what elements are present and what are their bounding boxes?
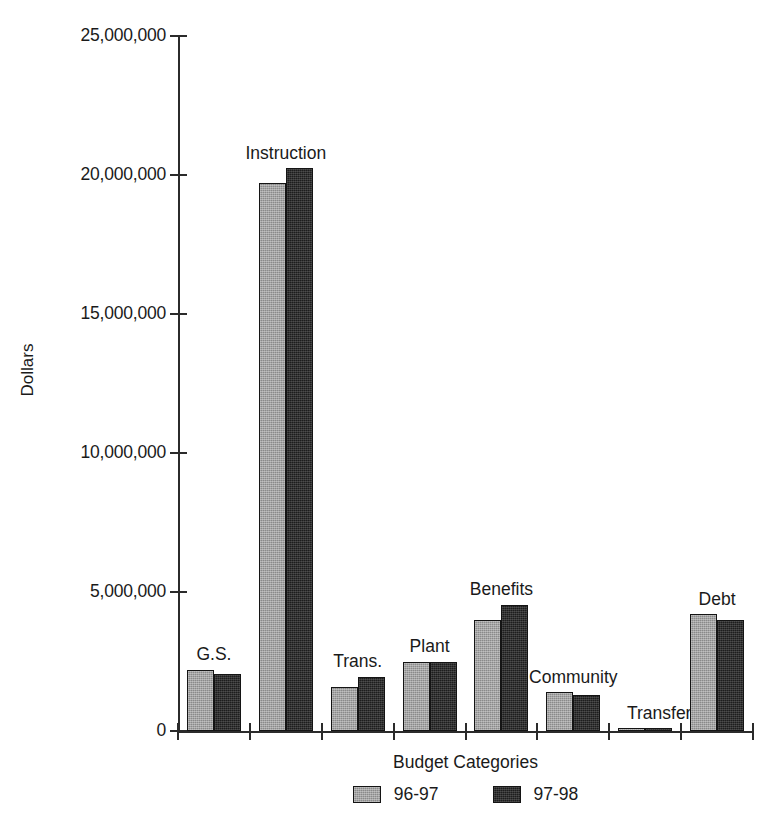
bar-chart: 05,000,00010,000,00015,000,00020,000,000…: [0, 0, 769, 817]
bar-group-label: Debt: [699, 591, 736, 609]
bar: [690, 614, 717, 731]
bar-group-label: Trans.: [333, 653, 382, 671]
bar: [474, 620, 501, 731]
bar: [214, 674, 241, 731]
bar-group-label: Plant: [410, 638, 450, 656]
x-axis-tick: [608, 723, 610, 740]
bar-group-label: Instruction: [245, 145, 326, 163]
bar-group: Plant: [394, 36, 466, 731]
bar-group: Instruction: [250, 36, 322, 731]
y-axis-title: Dollars: [18, 320, 38, 420]
x-axis-tick: [536, 723, 538, 740]
x-axis-title: Budget Categories: [178, 752, 753, 773]
bar-group-label: Community: [529, 669, 618, 687]
y-axis-tick-label: 10,000,000: [6, 444, 166, 462]
x-axis-tick: [680, 723, 682, 740]
legend-item: 97-98: [493, 786, 579, 804]
x-axis-tick: [321, 723, 323, 740]
bar: [259, 183, 286, 731]
bar: [286, 168, 313, 731]
x-axis-tick: [465, 723, 467, 740]
plot-area: G.S.InstructionTrans.PlantBenefitsCommun…: [178, 36, 753, 731]
y-axis-tick-label: 5,000,000: [6, 583, 166, 601]
bar: [501, 605, 528, 731]
bar: [187, 670, 214, 731]
gray-swatch: [353, 786, 381, 803]
black-swatch: [493, 786, 521, 803]
bar: [331, 687, 358, 731]
bar-group: Trans.: [322, 36, 394, 731]
legend-label: 97-98: [534, 786, 579, 804]
bar: [430, 662, 457, 732]
bar-group: Benefits: [466, 36, 538, 731]
y-axis-tick-label: 0: [6, 722, 166, 740]
bar-group-label: G.S.: [196, 646, 231, 664]
bar: [546, 692, 573, 731]
bar-group-label: Benefits: [470, 581, 533, 599]
x-axis-tick: [393, 723, 395, 740]
bar-group: Debt: [681, 36, 753, 731]
bar-group: Community: [537, 36, 609, 731]
x-axis-tick: [752, 723, 754, 740]
chart-legend: 96-9797-98: [178, 786, 753, 804]
legend-item: 96-97: [353, 786, 439, 804]
bar: [573, 695, 600, 731]
y-axis-tick-label: 25,000,000: [6, 27, 166, 45]
x-axis-tick: [177, 723, 179, 740]
bar: [717, 620, 744, 731]
y-axis-tick-label: 20,000,000: [6, 166, 166, 184]
x-axis-tick: [249, 723, 251, 740]
bar-group: Transfer: [609, 36, 681, 731]
bar: [358, 677, 385, 731]
bar: [403, 662, 430, 732]
bar-group: G.S.: [178, 36, 250, 731]
legend-label: 96-97: [394, 786, 439, 804]
